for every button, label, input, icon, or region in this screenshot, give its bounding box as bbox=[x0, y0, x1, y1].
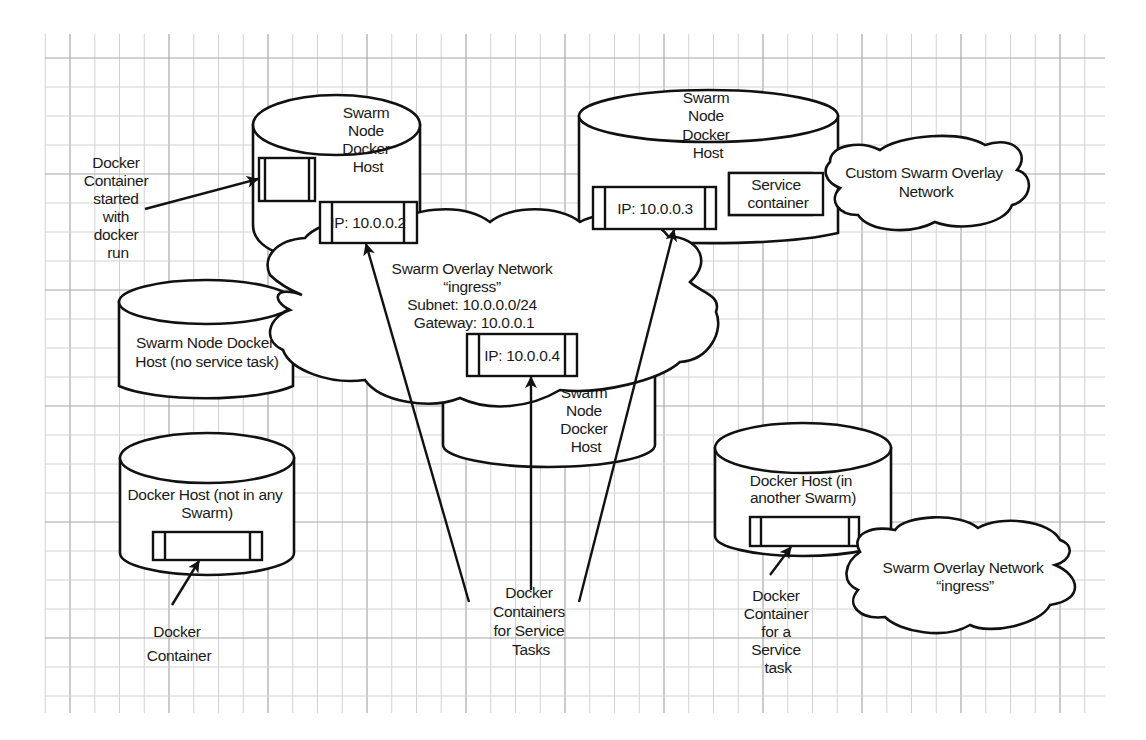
container-ip-10-0-0-2: IP: 10.0.0.2 bbox=[320, 202, 417, 243]
host-other-swarm-label: Docker Host (in another Swarm) bbox=[750, 472, 856, 506]
ip-label-2: IP: 10.0.0.2 bbox=[330, 214, 406, 231]
ip-label-4: IP: 10.0.0.4 bbox=[484, 347, 560, 364]
annotation-other-swarm-container: Docker Container for a Service task bbox=[744, 587, 813, 676]
annotation-service-task-containers: Docker Containers for Service Tasks bbox=[493, 584, 569, 658]
annotation-docker-run: Docker Container started with docker run bbox=[84, 154, 153, 261]
ip-label-3: IP: 10.0.0.3 bbox=[617, 200, 693, 217]
custom-overlay-cloud: Custom Swarm Overlay Network bbox=[826, 136, 1029, 230]
container-ip-10-0-0-4: IP: 10.0.0.4 bbox=[467, 334, 577, 376]
other-swarm-container-box bbox=[750, 517, 859, 546]
host-no-task-cylinder: Swarm Node Docker Host (no service task) bbox=[119, 280, 293, 398]
other-ingress-cloud: Swarm Overlay Network “ingress” bbox=[846, 517, 1075, 633]
service-container-box: Service container bbox=[729, 173, 823, 215]
container-ip-10-0-0-3: IP: 10.0.0.3 bbox=[593, 187, 716, 229]
arrow-docker-run bbox=[145, 179, 258, 209]
standalone-container-box bbox=[153, 532, 262, 560]
annotation-standalone-container: Docker Container bbox=[147, 623, 212, 664]
docker-run-container-box bbox=[259, 158, 315, 201]
ingress-overlay-label: Swarm Overlay Network “ingress” Subnet: … bbox=[392, 260, 557, 331]
service-container-label: Service container bbox=[747, 176, 808, 211]
swarm-network-diagram: Swarm Node Docker Host Swarm Node Docker… bbox=[0, 0, 1146, 740]
host-no-swarm-cylinder: Docker Host (not in any Swarm) bbox=[120, 433, 294, 575]
